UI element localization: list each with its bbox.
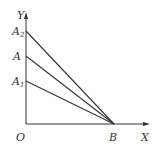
point-label-a: A (12, 50, 21, 63)
point-label-a2: A2 (11, 25, 25, 39)
origin-label: O (16, 131, 25, 144)
line-a-b (26, 56, 114, 124)
diagram-canvas: Y A2 A A1 O B X (0, 0, 158, 153)
line-a1-b (26, 81, 114, 124)
point-label-a1: A1 (11, 75, 24, 89)
x-axis-arrow-icon (143, 122, 150, 126)
y-axis-label: Y (17, 9, 26, 22)
line-a2-b (26, 31, 114, 124)
y-axis-arrow-icon (24, 12, 28, 19)
point-label-b: B (108, 131, 117, 144)
x-axis-label: X (140, 131, 150, 144)
